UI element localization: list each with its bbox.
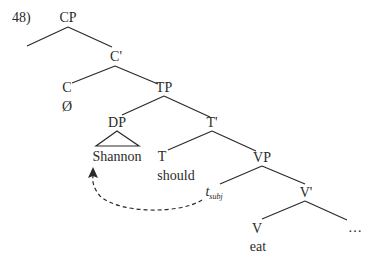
node-trace-subj: tsubj xyxy=(205,185,222,199)
node-v-bar: V' xyxy=(300,186,313,200)
branch-vp-trace xyxy=(220,166,262,184)
branch-vbar-v xyxy=(262,201,305,219)
node-c-null: Ø xyxy=(62,100,72,114)
trace-subscript: subj xyxy=(209,192,222,201)
branch-tp-tbar xyxy=(164,96,210,117)
branch-vbar-complement xyxy=(305,201,347,220)
node-tp: TP xyxy=(156,81,172,95)
node-v: V xyxy=(252,222,262,236)
branch-tp-dp xyxy=(122,96,164,115)
node-dp: DP xyxy=(108,116,126,130)
node-c-bar: C' xyxy=(110,50,122,64)
branch-cp-cbar xyxy=(68,27,112,47)
branch-cp-spec xyxy=(27,27,68,46)
node-cp: CP xyxy=(59,11,76,25)
node-vp: VP xyxy=(253,151,271,165)
dp-triangle xyxy=(96,131,139,146)
dp-content-shannon: Shannon xyxy=(93,150,142,164)
node-c: C xyxy=(62,81,71,95)
branch-tbar-vp xyxy=(212,131,256,151)
branch-cbar-c xyxy=(72,66,115,83)
ellipsis: … xyxy=(348,221,362,235)
example-number: 48) xyxy=(12,11,31,25)
branch-vp-vbar xyxy=(262,166,305,184)
branch-tbar-t xyxy=(168,131,212,150)
branch-cbar-tp xyxy=(115,66,158,84)
tree-branches xyxy=(0,0,373,261)
word-eat: eat xyxy=(250,240,266,254)
node-t-bar: T' xyxy=(206,116,217,130)
node-t: T xyxy=(158,150,167,164)
syntax-tree: 48) CP C' C Ø TP DP Shannon T' T should … xyxy=(0,0,373,261)
word-should: should xyxy=(157,169,194,183)
